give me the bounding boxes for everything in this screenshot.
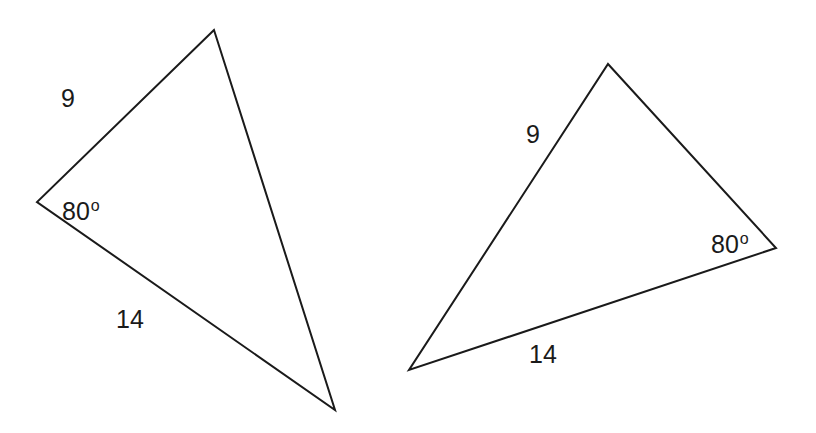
left-angle-label: 80o <box>62 198 100 224</box>
left-side-a-value: 9 <box>61 84 75 112</box>
diagram-canvas <box>0 0 816 433</box>
right-side-14-label: 14 <box>529 342 557 367</box>
degree-symbol: o <box>740 230 749 247</box>
right-side-a-value: 9 <box>526 120 540 148</box>
left-side-9-label: 9 <box>61 86 75 111</box>
right-angle-value: 80 <box>711 230 739 258</box>
right-side-b-value: 14 <box>529 340 557 368</box>
degree-symbol: o <box>91 197 100 214</box>
right-side-9-label: 9 <box>526 122 540 147</box>
left-side-b-value: 14 <box>116 305 144 333</box>
triangle-right <box>409 64 776 370</box>
left-side-14-label: 14 <box>116 307 144 332</box>
left-angle-value: 80 <box>62 197 90 225</box>
right-angle-label: 80o <box>711 231 749 257</box>
